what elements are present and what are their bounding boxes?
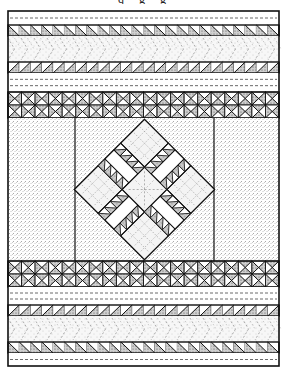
dotted-band-1 xyxy=(8,36,281,62)
triangle-row-4 xyxy=(8,342,279,353)
white-strip-upper xyxy=(8,73,279,92)
center-field xyxy=(8,118,279,261)
quilt-diagram xyxy=(0,0,288,377)
top-white-strip xyxy=(8,11,279,25)
triangle-row-1 xyxy=(8,25,279,36)
hourglass-band-upper xyxy=(8,92,279,118)
bottom-white-strip xyxy=(8,353,279,366)
hourglass-band-lower xyxy=(8,261,279,287)
triangle-row-3 xyxy=(8,305,279,316)
triangle-row-2 xyxy=(8,62,279,73)
dotted-band-2 xyxy=(8,316,281,342)
white-strip-lower xyxy=(8,287,279,305)
quilt-layer xyxy=(8,11,281,366)
